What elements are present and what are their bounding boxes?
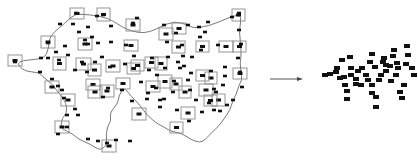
box-center-dot — [60, 126, 65, 129]
node-dot — [155, 74, 159, 77]
node-dot — [86, 26, 90, 29]
node-dot — [238, 71, 242, 74]
node-dot — [108, 66, 112, 69]
node-dot — [13, 61, 17, 64]
cluster-dot — [353, 82, 359, 86]
cluster-dot — [348, 73, 354, 77]
network-panel — [8, 8, 247, 152]
transform-arrow — [270, 77, 303, 81]
cluster-dot — [383, 69, 389, 73]
node-dot — [71, 23, 75, 26]
node-dot — [63, 45, 67, 48]
node-dot — [239, 43, 243, 46]
cluster-dot — [341, 75, 347, 79]
node-dot — [163, 67, 167, 70]
node-dot — [56, 133, 60, 136]
node-dot — [120, 89, 124, 92]
box-center-dot — [137, 113, 142, 116]
node-dot — [223, 66, 227, 69]
node-dot — [83, 39, 87, 42]
node-dot — [147, 69, 151, 72]
node-dot — [106, 87, 110, 90]
cluster-dot — [339, 58, 345, 62]
node-dot — [230, 16, 234, 19]
box-center-dot — [159, 62, 164, 65]
node-dot — [154, 87, 158, 90]
node-dot — [96, 140, 100, 143]
box-center-dot — [131, 67, 136, 70]
node-dot — [130, 100, 134, 103]
cluster-dot — [327, 72, 333, 76]
cluster-dot — [369, 91, 375, 95]
node-dot — [86, 43, 90, 46]
box-center-dot — [93, 91, 98, 94]
node-dot — [237, 29, 241, 32]
node-dot — [146, 92, 150, 95]
node-dot — [58, 23, 62, 26]
node-dot — [158, 106, 162, 109]
node-dot — [96, 42, 100, 45]
cluster-dot — [388, 79, 394, 83]
node-dot — [172, 80, 176, 83]
node-dot — [85, 71, 89, 74]
cluster-dot — [378, 73, 384, 77]
arrow-head-icon — [297, 77, 303, 81]
node-dot — [236, 57, 240, 60]
node-dot — [165, 41, 169, 44]
node-dot — [123, 63, 127, 66]
box-center-dot — [224, 45, 229, 48]
node-dot — [187, 120, 191, 123]
box-center-dot — [121, 82, 126, 85]
diagram-canvas — [0, 0, 418, 163]
node-dot — [197, 26, 201, 29]
cluster-dot — [381, 56, 387, 60]
node-dot — [131, 22, 135, 25]
cluster-dot — [394, 61, 400, 65]
node-dot — [174, 32, 178, 35]
node-dot — [73, 69, 77, 72]
cluster-dot — [372, 65, 378, 69]
node-dot — [186, 79, 190, 82]
node-dot — [135, 17, 139, 20]
cluster-dot — [333, 70, 339, 74]
node-dot — [158, 99, 162, 102]
node-dot — [162, 98, 166, 101]
node-dot — [212, 88, 216, 91]
node-dot — [199, 49, 203, 52]
node-dot — [194, 99, 198, 102]
box-center-dot — [105, 90, 110, 93]
node-dot — [225, 104, 229, 107]
node-dot — [90, 36, 94, 39]
cluster-dot — [347, 55, 353, 59]
cluster-dot — [399, 96, 405, 100]
node-dot — [212, 109, 216, 112]
node-dot — [65, 114, 69, 117]
node-dot — [175, 109, 179, 112]
node-dot — [189, 72, 193, 75]
cluster-dot — [342, 83, 348, 87]
box-center-dot — [129, 44, 134, 47]
node-dot — [218, 110, 222, 113]
node-dot — [181, 55, 185, 58]
cluster-dot — [373, 95, 379, 99]
node-dot — [190, 56, 194, 59]
cluster-dot — [393, 73, 399, 77]
node-dot — [223, 75, 227, 78]
node-dot — [206, 21, 210, 24]
cluster-dot — [365, 78, 371, 82]
cluster-dot — [369, 52, 375, 56]
node-dot — [166, 56, 170, 59]
node-dot — [209, 70, 213, 73]
node-dot — [60, 89, 64, 92]
node-dot — [46, 42, 50, 45]
box-center-dot — [204, 89, 209, 92]
node-dot — [38, 71, 42, 74]
node-dot — [150, 57, 154, 60]
node-dot — [114, 139, 118, 142]
box-center-dot — [107, 145, 112, 148]
node-dot — [39, 57, 43, 60]
node-dot — [66, 54, 70, 57]
node-dot — [109, 41, 113, 44]
node-dot — [93, 61, 97, 64]
box-center-dot — [174, 126, 179, 129]
